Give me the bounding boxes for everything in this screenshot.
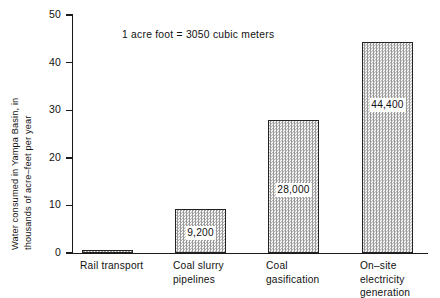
- x-axis-category-label-2: Coal gasification: [266, 259, 319, 286]
- y-axis-tick-label: 0: [33, 246, 61, 258]
- x-axis-category-label-1: Coal slurry pipelines: [173, 259, 224, 286]
- chart-annotation: 1 acre foot = 3050 cubic meters: [122, 29, 274, 40]
- y-axis-title-line-1: Water consumed in Yampa Basin, in: [9, 98, 22, 250]
- bar-2[interactable]: 28,000: [268, 120, 319, 253]
- bar-value-label: 44,400: [369, 98, 405, 112]
- y-axis-title: Water consumed in Yampa Basin, in thousa…: [0, 0, 34, 258]
- plot-area: 9,20028,00044,400: [72, 15, 428, 253]
- bar-value-label: 28,000: [275, 183, 311, 197]
- x-axis-category-label-3: On–site electricity generation: [360, 259, 410, 298]
- bar-3[interactable]: 44,400: [362, 42, 413, 253]
- y-axis-tick-label: 20: [33, 151, 61, 163]
- y-axis-tick-label: 40: [33, 56, 61, 68]
- y-axis-tick-label: 30: [33, 103, 61, 115]
- y-axis-tick-label: 50: [33, 8, 61, 20]
- y-axis-title-line-2: thousands of acre–feet per year: [22, 116, 35, 250]
- x-axis-category-label-0: Rail transport: [80, 259, 143, 273]
- bar-chart: Water consumed in Yampa Basin, in thousa…: [0, 0, 440, 298]
- bar-1[interactable]: 9,200: [175, 209, 226, 253]
- bar-value-label: 9,200: [185, 226, 216, 240]
- bar-0[interactable]: [82, 250, 133, 253]
- y-axis-tick-label: 10: [33, 198, 61, 210]
